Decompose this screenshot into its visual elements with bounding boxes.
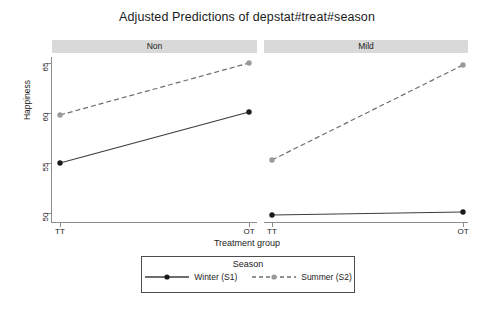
y-tick-label-65: 65 (41, 63, 50, 87)
panel-header-mild: Mild (264, 40, 468, 53)
x-axis-label: Treatment group (0, 238, 494, 248)
y-axis-label: Happiness (22, 50, 32, 150)
x-tick-label-mild-tt: TT (259, 227, 285, 236)
panel-header-non: Non (52, 40, 257, 53)
legend-label-summer: Summer (S2) (301, 272, 352, 282)
legend-title: Season (142, 259, 354, 269)
legend-key-summer-icon (251, 272, 297, 282)
legend-entry-winter[interactable]: Winter (S1) (144, 272, 237, 282)
y-tick-label-60: 60 (41, 113, 50, 137)
x-axis-line-non (52, 222, 257, 223)
legend-key-winter-icon (144, 272, 190, 282)
plot-area-mild (264, 57, 468, 223)
chart-title: Adjusted Predictions of depstat#treat#se… (0, 10, 494, 24)
chart-canvas: Adjusted Predictions of depstat#treat#se… (0, 0, 494, 314)
legend-entries: Winter (S1) Summer (S2) (142, 272, 354, 282)
x-tick-label-mild-ot: OT (450, 227, 476, 236)
y-tick-label-55: 55 (41, 163, 50, 187)
legend-label-winter: Winter (S1) (194, 272, 237, 282)
x-tick-label-non-tt: TT (47, 227, 73, 236)
x-axis-line-mild (264, 222, 468, 223)
plot-area-non (52, 57, 257, 223)
legend: Season Winter (S1) Summer (S2) (141, 256, 355, 293)
legend-entry-summer[interactable]: Summer (S2) (251, 272, 352, 282)
